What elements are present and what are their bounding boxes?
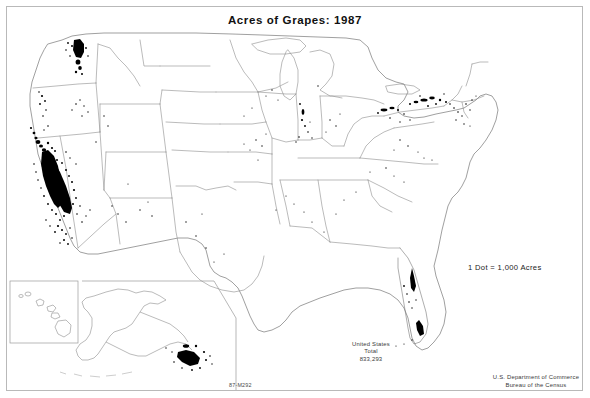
border-me-nh [472,62,488,64]
border-mo-ar [228,152,272,154]
hawaii-inset [10,281,78,343]
border-nm-tx [172,198,180,252]
national-outline [30,33,498,350]
border-nh-vt [466,64,472,86]
border-ms-al [280,180,290,226]
dots-southeast [335,139,432,214]
border-al-ga [318,180,330,242]
border-oh-ky [322,138,344,146]
dots-midsouth [243,133,266,160]
us-total-line2: Total [340,348,402,355]
border-wa-or [33,83,96,88]
border-wa-id [96,44,98,83]
border-wi-il [258,92,296,94]
source-attribution: U.S. Department of Commerce Bureau of th… [486,374,586,389]
border-or-ca [38,132,100,138]
border-la-ms [272,184,280,224]
border-in-oh [320,96,322,138]
border-ok-tx [176,186,236,190]
dots-interior-west [95,115,152,222]
state-boundaries-layer [30,33,498,350]
legend-note: 1 Dot = 1,000 Acres [468,263,542,272]
border-az-nm [110,198,120,244]
border-pa-md-de [394,122,434,128]
source-line1: U.S. Department of Commerce [486,374,586,382]
us-total-annotation: United States Total 833,293 [340,341,402,363]
border-nv-ut [100,132,104,190]
alaska-inset [60,281,236,390]
border-wy-nebr [160,104,166,152]
texas-outline [180,252,264,292]
border-nc-va [360,158,438,164]
florida-peninsula [398,248,428,344]
lake-ontario [386,84,420,94]
border-ne-ks [166,122,220,124]
border-ks-ok [172,150,228,152]
alaska-inset-frame [82,281,236,390]
us-total-value: 833,293 [340,356,402,363]
dots-pennsylvania [377,107,411,123]
border-ar-la [234,182,272,184]
dots-alaska-inset [165,344,212,371]
border-ut-co [104,152,106,190]
border-mt-nd [140,40,160,66]
dots-washington [65,39,89,75]
dots-ohio-valley [309,113,340,132]
dots-california [30,127,91,245]
border-ia-mo [220,122,266,124]
border-il-in [296,94,298,140]
dots-texas [185,213,224,262]
border-mn-wi [230,40,258,92]
us-total-line1: United States [340,341,402,348]
dots-oregon [38,91,89,131]
border-mo-il [266,122,272,154]
border-wy-sd [160,90,162,104]
border-ga-fl [330,242,400,248]
map-canvas-container [0,0,590,398]
border-al-fl [290,226,330,242]
border-ny-ne [444,86,462,106]
lake-michigan [280,50,298,100]
source-line2: Bureau of the Census [486,382,586,390]
border-sc-nc [368,180,412,202]
map-code-label: 87-M292 [229,382,252,388]
border-ca-az-south [78,214,116,248]
border-ga-sc-nc [368,180,392,212]
grapes-acreage-map-figure: Acres of Grapes: 1987 [0,0,590,398]
lake-superior [252,38,306,54]
border-sd-ne [162,90,216,92]
border-wi-mi-north [258,82,288,92]
border-or-id [96,83,100,132]
border-va-wv-md [360,128,394,158]
border-ma-ct-ri [462,102,468,118]
border-il-ky [272,138,298,142]
us-dot-density-map [0,0,590,398]
dot-density-layer [30,39,477,371]
border-ut-az [104,190,110,198]
border-in-ky [298,138,322,140]
border-ia-il [258,92,266,122]
border-wv-oh-pa [344,116,384,146]
border-co-ks [166,152,172,198]
dots-michigan [295,85,318,142]
border-id-mt [98,44,140,86]
